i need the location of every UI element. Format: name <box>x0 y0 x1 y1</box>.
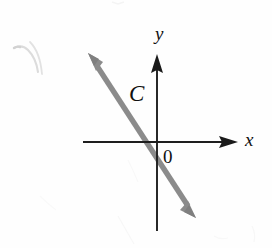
line-c-label: C <box>129 82 144 105</box>
figure-canvas <box>0 0 272 248</box>
coordinate-plane-figure: y x C 0 <box>0 0 272 248</box>
origin-label: 0 <box>163 147 173 166</box>
x-axis-label: x <box>245 130 253 149</box>
y-axis-label: y <box>155 24 163 43</box>
